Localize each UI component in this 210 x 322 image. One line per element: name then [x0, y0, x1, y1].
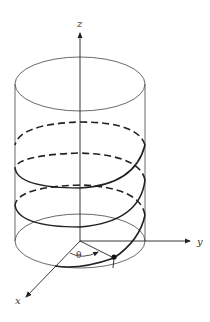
radius-line	[80, 241, 114, 258]
theta-arc	[70, 252, 98, 256]
theta-label: θ	[76, 250, 81, 260]
z-axis-label: z	[76, 18, 83, 29]
x-axis	[26, 241, 80, 297]
helix-cylinder-diagram: θ z y x	[0, 0, 210, 322]
axes	[26, 33, 190, 297]
y-axis-label: y	[196, 236, 203, 247]
x-axis-label: x	[15, 295, 21, 306]
helix-point	[111, 254, 116, 259]
